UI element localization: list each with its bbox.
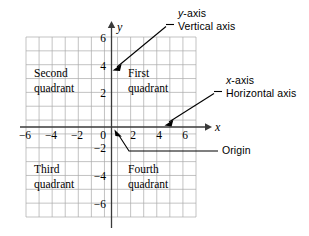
x-axis-arrowhead bbox=[205, 123, 212, 130]
x-tick-label-neg2: −2 bbox=[66, 130, 88, 142]
y-axis-callout-arrowhead bbox=[113, 64, 122, 71]
y-tick-label-neg4: −4 bbox=[86, 171, 106, 183]
x-axis-callout-arrowhead bbox=[165, 120, 174, 127]
x-axis-callout-line1: x-axis bbox=[226, 75, 254, 86]
y-tick-label-neg6: −6 bbox=[86, 199, 106, 211]
x-tick-label-pos2: 2 bbox=[122, 130, 144, 142]
quadrant-label-second-line2: quadrant bbox=[34, 83, 74, 95]
y-tick-label-pos6: 6 bbox=[86, 33, 106, 45]
coordinate-plane-figure: −6 −4 −2 0 2 4 6 6 4 2 −2 −4 −6 x y Seco… bbox=[0, 0, 309, 236]
x-tick-label-pos6: 6 bbox=[174, 130, 196, 142]
y-tick-label-pos4: 4 bbox=[86, 61, 106, 73]
origin-callout-arrowhead bbox=[115, 130, 122, 137]
quadrant-label-first-line2: quadrant bbox=[128, 83, 168, 95]
x-tick-label-neg6: −6 bbox=[14, 130, 36, 142]
quadrant-label-fourth-line1: Fourth bbox=[128, 164, 159, 176]
quadrant-label-third-line2: quadrant bbox=[34, 179, 74, 191]
x-tick-label-pos4: 4 bbox=[148, 130, 170, 142]
y-axis-callout-line1: y-axis bbox=[178, 8, 206, 19]
quadrant-label-fourth-line2: quadrant bbox=[128, 179, 168, 191]
x-tick-label-neg4: −4 bbox=[40, 130, 62, 142]
y-axis-callout-suffix: -axis bbox=[183, 7, 206, 19]
y-axis-arrowhead bbox=[108, 21, 115, 28]
x-tick-label-zero: 0 bbox=[92, 130, 114, 142]
quadrant-label-third-line1: Third bbox=[34, 164, 60, 176]
y-tick-label-pos2: 2 bbox=[86, 88, 106, 100]
origin-callout-label: Origin bbox=[222, 145, 251, 156]
quadrant-label-second-line1: Second bbox=[34, 68, 68, 80]
quadrant-label-first-line1: First bbox=[128, 68, 149, 80]
axis-lines bbox=[20, 28, 205, 228]
x-axis-callout-line2: Horizontal axis bbox=[226, 88, 296, 99]
x-axis-variable-label: x bbox=[215, 121, 220, 133]
x-axis-callout-suffix: -axis bbox=[231, 74, 254, 86]
y-axis-callout-line2: Vertical axis bbox=[178, 21, 235, 32]
y-tick-label-neg2: −2 bbox=[86, 143, 106, 155]
coordinate-plane-graphics bbox=[0, 0, 309, 236]
y-axis-variable-label: y bbox=[117, 21, 122, 33]
x-axis-callout-leader bbox=[169, 92, 222, 123]
y-axis-callout-leader bbox=[117, 25, 174, 68]
